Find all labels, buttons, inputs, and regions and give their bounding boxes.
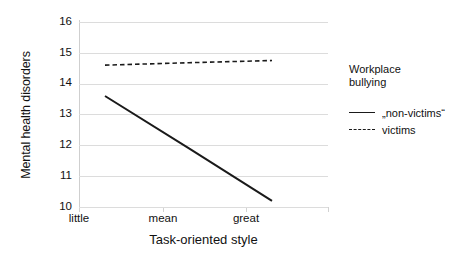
x-tick-label-mean: mean (128, 212, 198, 224)
x-axis-title: Task-oriented style (79, 232, 328, 247)
y-tick-label: 11 (48, 170, 72, 182)
legend-label-non-victims: „non-victims“ (382, 107, 445, 119)
y-tick-label: 13 (48, 108, 72, 120)
legend-title-line-1: Workplace (349, 63, 457, 76)
series-line-victims (105, 61, 272, 66)
legend-label-victims: victims (382, 124, 416, 136)
legend-title-line-2: bullying (349, 76, 457, 89)
x-tick-mark (328, 207, 329, 212)
chart-legend: Workplace bullying „non-victims“ victims (349, 63, 457, 139)
legend-item-non-victims: „non-victims“ (349, 105, 457, 120)
data-series-layer (79, 22, 328, 207)
gridline (79, 207, 328, 208)
y-tick-label: 15 (48, 47, 72, 59)
y-tick-label: 12 (48, 139, 72, 151)
x-tick-label-little: little (44, 212, 114, 224)
y-tick-label: 10 (48, 201, 72, 213)
plot-area (79, 22, 328, 207)
series-line-non-victims (105, 96, 272, 201)
legend-swatch-solid-icon (349, 108, 375, 118)
legend-item-victims: victims (349, 122, 457, 137)
y-tick-label: 16 (48, 16, 72, 28)
y-axis-title: Mental health disorders (19, 15, 33, 215)
y-tick-label: 14 (48, 77, 72, 89)
x-tick-label-great: great (211, 212, 281, 224)
legend-title: Workplace bullying (349, 63, 457, 89)
legend-swatch-dashed-icon (349, 125, 375, 135)
chart-figure: Mental health disorders 16 15 14 13 12 1… (0, 0, 460, 260)
